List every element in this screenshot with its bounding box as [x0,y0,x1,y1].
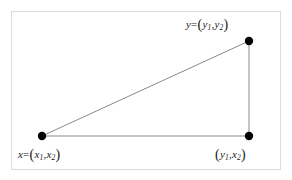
label-y-first-sub: 1 [207,23,211,32]
label-mixed-second-sub: 2 [237,153,241,162]
label-x-first-sub: 1 [39,153,43,162]
label-mixed-first-sub: 1 [225,153,229,162]
vertex-dot-x [38,132,46,140]
label-x-close-paren: ) [55,147,60,162]
vertex-label-y: y=(y1,y2) [186,18,228,32]
label-mixed-close-paren: ) [241,147,246,162]
figure-root: y=(y1,y2) x=(x1,x2) (y1,x2) [0,0,292,180]
label-y-close-paren: ) [223,17,228,32]
vertex-dot-y [245,37,253,45]
vertex-label-x: x=(x1,x2) [18,148,60,162]
hypotenuse-line [42,41,249,136]
vertex-dot-mixed [245,132,253,140]
vertex-label-mixed: (y1,x2) [215,148,246,162]
label-x-second-sub: 2 [51,153,55,162]
label-y-second-sub: 2 [219,23,223,32]
